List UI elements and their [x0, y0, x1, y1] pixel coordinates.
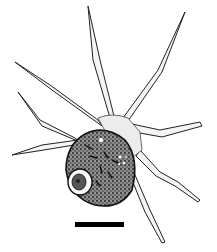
spine-top	[88, 6, 115, 120]
cell-illustration	[0, 0, 217, 252]
spine-right	[132, 122, 202, 137]
spine-top-right	[123, 12, 185, 121]
scale-bar	[75, 222, 124, 227]
spine-upper-left	[15, 62, 102, 126]
cell-drawing	[0, 0, 217, 252]
spine-lower-right	[136, 150, 200, 202]
nucleus	[68, 169, 92, 195]
